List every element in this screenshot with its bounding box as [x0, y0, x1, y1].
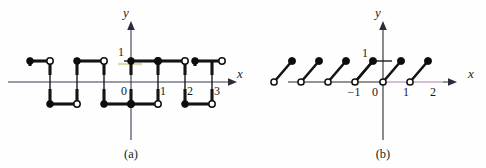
- panel-b-x-tick-label-neg1: −1: [348, 85, 361, 99]
- closed-dot: [128, 101, 135, 108]
- open-dot: [182, 58, 188, 64]
- panel-b-y-axis-label: y: [373, 5, 381, 20]
- closed-dot: [27, 58, 34, 65]
- panel-b-x-tick-label-2: 2: [430, 85, 436, 99]
- panel-b-sawtooth-wave: y x 1 −1 0 1 2 (b): [243, 0, 486, 168]
- panel-a-y-axis-label: y: [121, 5, 129, 20]
- closed-dot: [424, 57, 431, 64]
- panel-b-ramp-segments-extra: [274, 61, 292, 82]
- closed-dot: [369, 57, 376, 64]
- panel-a-x-tick-label-0: 0: [121, 84, 127, 98]
- panel-b-segment-1: [301, 61, 319, 82]
- closed-dot: [397, 57, 404, 64]
- panel-b-x-tick-label-1: 1: [403, 85, 409, 99]
- panel-b-segment-0: [274, 61, 292, 82]
- panel-a-x-tick-label-1: 1: [160, 84, 166, 98]
- panel-a-x-axis-label: x: [236, 66, 243, 81]
- closed-dot: [182, 101, 189, 108]
- open-dot: [155, 101, 161, 107]
- panel-b-y-axis-arrow: [379, 21, 387, 30]
- panel-b-x-axis-arrow: [448, 78, 457, 86]
- figure-root: y x 1 0 1 2 3 (a): [0, 0, 486, 168]
- open-dot: [47, 58, 53, 64]
- open-dot: [219, 58, 225, 64]
- panel-b-caption: (b): [376, 147, 391, 161]
- open-dot: [380, 79, 386, 85]
- closed-dot: [192, 58, 199, 65]
- panel-b-segment-5: [410, 61, 428, 82]
- panel-b-segment-4: [383, 61, 401, 82]
- open-dot: [298, 79, 304, 85]
- panel-a-x-axis-arrow: [228, 78, 237, 86]
- panel-a-x-tick-label-2: 2: [187, 84, 193, 98]
- closed-dot: [155, 58, 162, 65]
- panel-b-endpoints: [271, 57, 432, 85]
- panel-b-x-tick-label-0: 0: [372, 85, 378, 99]
- closed-dot: [101, 101, 108, 108]
- panel-a-x-tick-label-3: 3: [214, 84, 220, 98]
- closed-dot: [128, 58, 135, 65]
- panel-a-y-tick-label-1: 1: [118, 45, 124, 59]
- panel-b-segment-2: [328, 61, 346, 82]
- panel-b-x-axis-label: x: [467, 66, 474, 81]
- closed-dot: [342, 57, 349, 64]
- open-dot: [209, 101, 215, 107]
- open-dot: [271, 79, 277, 85]
- open-dot: [101, 58, 107, 64]
- closed-dot: [288, 57, 295, 64]
- closed-dot: [315, 57, 322, 64]
- panel-b-segment-3b: [355, 61, 373, 82]
- panel-b-y-tick-label-1: 1: [362, 46, 368, 60]
- closed-dot: [74, 58, 81, 65]
- open-dot: [325, 79, 331, 85]
- panel-a-y-axis-arrow: [127, 21, 135, 30]
- closed-dot: [47, 101, 54, 108]
- panel-a-caption: (a): [124, 147, 138, 161]
- panel-a-square-wave: y x 1 0 1 2 3 (a): [0, 0, 243, 168]
- open-dot: [74, 101, 80, 107]
